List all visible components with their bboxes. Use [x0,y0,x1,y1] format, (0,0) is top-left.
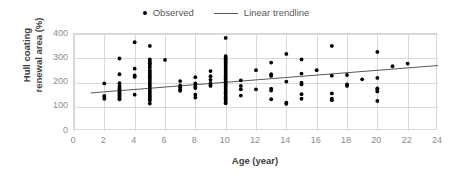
scatter-chart: Observed Linear trendline Hull coating r… [0,0,452,178]
data-point [269,74,273,78]
chart-legend: Observed Linear trendline [0,4,452,22]
data-point [300,92,304,96]
data-point [102,97,106,101]
data-point [375,90,379,94]
y-tick-label: 400 [40,29,68,38]
data-point [330,92,334,96]
data-point [102,82,106,86]
data-point [284,80,288,84]
data-point [193,86,197,90]
x-tick-label: 10 [210,136,240,145]
data-point [345,73,349,77]
data-point [300,97,304,101]
data-point [330,98,334,102]
data-point [133,75,137,79]
data-point [300,58,304,62]
data-point [406,62,410,66]
data-point [269,61,273,65]
x-tick-label: 6 [149,136,179,145]
x-tick-label: 14 [270,136,300,145]
x-tick-label: 8 [179,136,209,145]
legend-label-observed: Observed [153,8,194,18]
y-tick-label: 100 [40,101,68,110]
observed-data-points [102,36,409,106]
plot-area [73,33,437,130]
data-point [345,84,349,88]
data-point [315,68,319,72]
data-point [148,102,152,106]
data-point [118,97,122,101]
data-point [375,50,379,54]
data-point [118,72,122,76]
x-tick-label: 22 [392,136,422,145]
x-tick-label: 2 [88,136,118,145]
x-tick-label: 20 [361,136,391,145]
legend-entry-trendline: Linear trendline [214,8,310,18]
data-point [239,78,243,82]
data-point [133,93,137,97]
data-point [360,77,364,81]
data-point [269,89,273,93]
data-point [254,68,258,72]
data-point [254,87,258,91]
data-point [375,76,379,80]
x-tick-label: 12 [240,136,270,145]
y-tick-label: 0 [40,126,68,135]
legend-entry-observed: Observed [143,8,194,18]
x-tick-label: 0 [58,136,88,145]
data-point [209,69,213,73]
data-point [284,102,288,106]
data-point [193,75,197,79]
data-point [239,87,243,91]
y-tick-label: 300 [40,53,68,62]
x-axis-title: Age (year) [73,155,437,166]
y-tick-label: 200 [40,77,68,86]
observed-marker-icon [143,11,147,15]
trendline [91,66,438,93]
legend-label-trendline: Linear trendline [244,8,310,18]
x-tick-label: 16 [301,136,331,145]
data-point [163,58,167,62]
data-point [269,97,273,101]
data-point [224,101,228,105]
data-point [224,36,228,40]
data-point [375,99,379,103]
data-point [193,96,197,100]
plot-canvas [74,34,438,131]
data-point [133,67,137,71]
data-point [239,84,243,88]
data-point [300,72,304,76]
x-tick-label: 24 [422,136,452,145]
trendline-path [91,66,438,93]
data-point [118,57,122,61]
x-tick-label: 18 [331,136,361,145]
data-point [330,44,334,48]
trendline-marker-icon [214,13,238,14]
data-point [284,52,288,56]
data-point [209,78,213,82]
data-point [239,94,243,98]
data-point [148,44,152,48]
y-axis-title: Hull coating renewal area (%) [11,0,55,135]
data-point [391,64,395,68]
data-point [330,74,334,78]
data-point [209,84,213,88]
x-tick-label: 4 [119,136,149,145]
data-point [178,89,182,93]
data-point [209,74,213,78]
data-point [300,83,304,87]
vertical-gridlines [75,34,439,131]
data-point [133,40,137,44]
data-point [178,79,182,83]
